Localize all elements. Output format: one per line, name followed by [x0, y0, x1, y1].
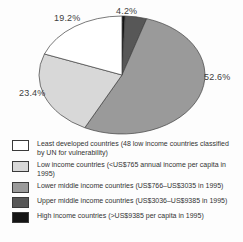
- pct-label-lower-middle-income: 52.6%: [204, 72, 231, 82]
- legend-swatch-least-developed: [12, 140, 29, 151]
- legend-swatch-lower-middle-income: [12, 182, 29, 193]
- pct-label-upper-middle-income: 4.2%: [116, 6, 137, 16]
- pct-label-least-developed: 19.2%: [54, 13, 81, 23]
- legend: Least developed countries (48 low income…: [12, 139, 236, 223]
- legend-swatch-low-income: [12, 161, 29, 172]
- legend-swatch-upper-middle-income: [12, 197, 29, 208]
- legend-swatch-high-income: [12, 212, 29, 223]
- legend-label-low-income: Low income countries (<US$765 annual inc…: [37, 160, 233, 178]
- pct-label-low-income: 23.4%: [19, 88, 46, 98]
- legend-label-upper-middle-income: Upper middle income countries (US$3036–U…: [37, 196, 233, 205]
- legend-label-high-income: High income countries (>US$9385 per capi…: [37, 211, 233, 220]
- legend-item-lower-middle-income: Lower middle income countries (US$766–US…: [12, 181, 236, 193]
- legend-label-lower-middle-income: Lower middle income countries (US$766–US…: [37, 181, 233, 190]
- legend-item-low-income: Low income countries (<US$765 annual inc…: [12, 160, 236, 178]
- pie-chart: 4.2%52.6%23.4%19.2%: [0, 0, 243, 140]
- legend-item-high-income: High income countries (>US$9385 per capi…: [12, 211, 236, 223]
- legend-item-least-developed: Least developed countries (48 low income…: [12, 139, 236, 157]
- legend-label-least-developed: Least developed countries (48 low income…: [37, 139, 233, 157]
- legend-item-upper-middle-income: Upper middle income countries (US$3036–U…: [12, 196, 236, 208]
- figure: 4.2%52.6%23.4%19.2% Least developed coun…: [0, 0, 243, 242]
